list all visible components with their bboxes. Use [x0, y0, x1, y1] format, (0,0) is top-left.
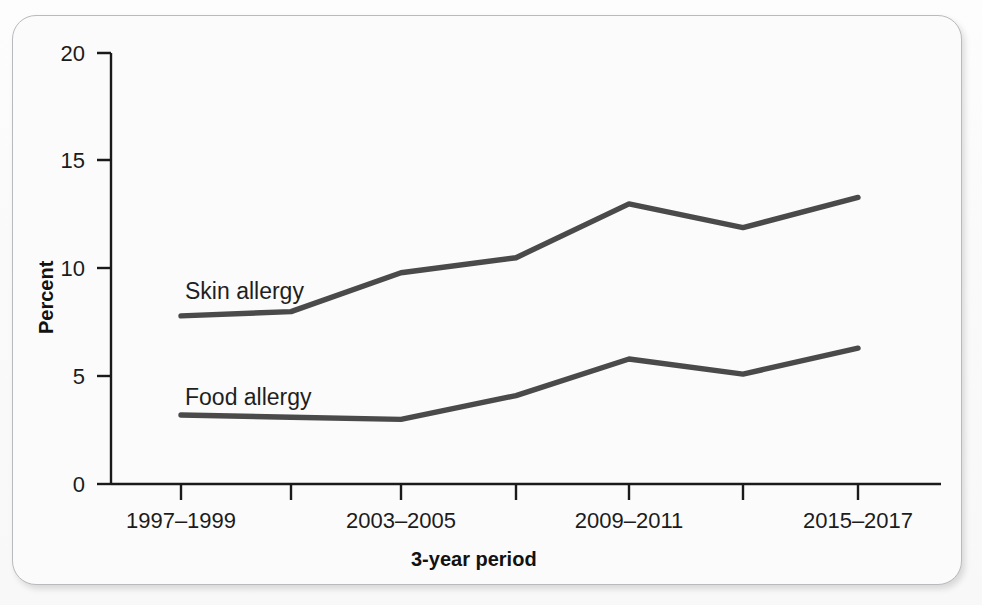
x-tick-label-2003-2005: 2003–2005 — [301, 508, 501, 534]
series-label-food-allergy: Food allergy — [185, 384, 312, 411]
x-axis-ticks — [181, 484, 858, 500]
y-tick-label-15: 15 — [25, 148, 85, 174]
y-tick-label-0: 0 — [25, 472, 85, 498]
series-label-skin-allergy: Skin allergy — [185, 278, 304, 305]
x-tick-label-2015-2017: 2015–2017 — [758, 508, 958, 534]
x-tick-label-1997-1999: 1997–1999 — [81, 508, 281, 534]
y-tick-label-20: 20 — [25, 41, 85, 67]
x-axis-title: 3-year period — [411, 548, 537, 571]
y-tick-label-5: 5 — [25, 364, 85, 390]
y-axis-ticks — [97, 53, 111, 484]
y-axis-title: Percent — [35, 261, 58, 334]
chart-card: 20 15 10 5 0 Percent 1997–1999 2003–2005… — [12, 15, 962, 585]
line-chart-plot — [13, 16, 962, 585]
figure-page: 20 15 10 5 0 Percent 1997–1999 2003–2005… — [0, 0, 982, 605]
x-tick-label-2009-2011: 2009–2011 — [529, 508, 729, 534]
